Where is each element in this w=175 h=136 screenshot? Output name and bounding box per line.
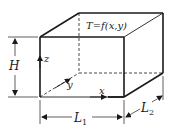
y-axis-label: y	[66, 79, 73, 90]
box-diagram: z y x T=f(x,y) H L1 L2	[0, 0, 175, 136]
z-axis-label: z	[43, 53, 50, 64]
temperature-equation: T=f(x,y)	[86, 20, 127, 31]
x-axis-label: x	[99, 85, 105, 96]
length1-label: L1	[73, 111, 87, 127]
height-label: H	[8, 59, 20, 73]
length2-label: L2	[140, 101, 154, 117]
